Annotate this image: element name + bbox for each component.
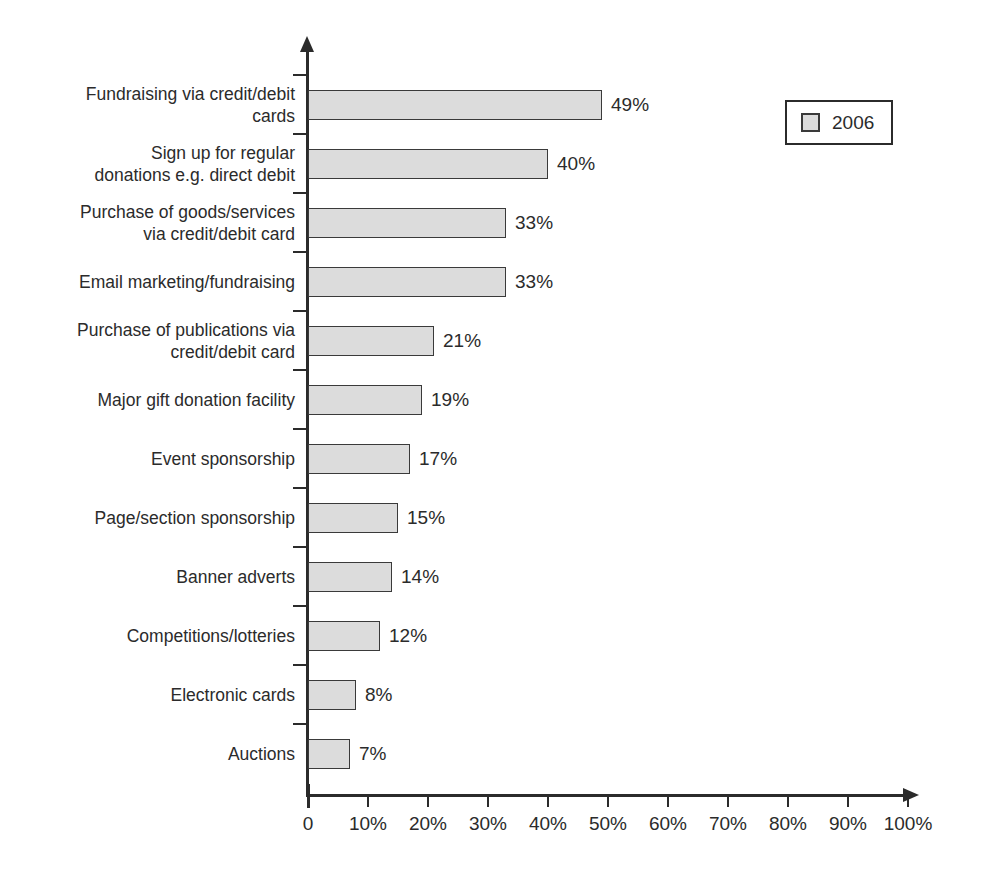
plot-area: Fundraising via credit/debit cards49%Sig… bbox=[0, 0, 987, 877]
bar-row: Email marketing/fundraising33% bbox=[0, 265, 987, 299]
bar-value-label: 33% bbox=[515, 210, 553, 236]
bar-value-label: 15% bbox=[407, 505, 445, 531]
bar-value-label: 17% bbox=[419, 446, 457, 472]
y-axis-tick bbox=[293, 723, 307, 725]
bar-value-label: 8% bbox=[365, 682, 392, 708]
x-axis-tick bbox=[547, 795, 549, 807]
bar bbox=[308, 680, 356, 710]
y-axis-tick bbox=[293, 605, 307, 607]
legend-label-2006: 2006 bbox=[832, 112, 874, 134]
bar bbox=[308, 326, 434, 356]
bar-row: Event sponsorship17% bbox=[0, 442, 987, 476]
bar bbox=[308, 385, 422, 415]
y-axis-tick bbox=[293, 369, 307, 371]
bar-value-label: 49% bbox=[611, 92, 649, 118]
category-label: Purchase of goods/services via credit/de… bbox=[20, 201, 295, 245]
category-label: Page/section sponsorship bbox=[20, 507, 295, 529]
category-label: Competitions/lotteries bbox=[20, 625, 295, 647]
bar-row: Purchase of publications via credit/debi… bbox=[0, 324, 987, 358]
bar-value-label: 14% bbox=[401, 564, 439, 590]
x-axis-tick bbox=[487, 795, 489, 807]
bar-row: Purchase of goods/services via credit/de… bbox=[0, 206, 987, 240]
y-axis-tick bbox=[293, 664, 307, 666]
x-axis-tick bbox=[907, 795, 909, 807]
y-axis-tick bbox=[293, 192, 307, 194]
x-axis-tick bbox=[787, 795, 789, 807]
x-axis-arrow-icon bbox=[903, 788, 919, 802]
x-axis-tick bbox=[667, 795, 669, 807]
bar-row: Banner adverts14% bbox=[0, 560, 987, 594]
y-axis-tick bbox=[293, 74, 307, 76]
category-label: Sign up for regular donations e.g. direc… bbox=[20, 142, 295, 186]
bar-row: Electronic cards8% bbox=[0, 678, 987, 712]
bar bbox=[308, 503, 398, 533]
bar-value-label: 7% bbox=[359, 741, 386, 767]
y-axis-tick bbox=[293, 133, 307, 135]
legend: 2006 bbox=[785, 100, 893, 145]
bar bbox=[308, 267, 506, 297]
category-label: Fundraising via credit/debit cards bbox=[20, 83, 295, 127]
bar bbox=[308, 621, 380, 651]
bar bbox=[308, 90, 602, 120]
category-label: Purchase of publications via credit/debi… bbox=[20, 319, 295, 363]
bar bbox=[308, 739, 350, 769]
bar-value-label: 40% bbox=[557, 151, 595, 177]
y-axis-tick bbox=[293, 310, 307, 312]
bar bbox=[308, 562, 392, 592]
bar bbox=[308, 444, 410, 474]
bar-row: Sign up for regular donations e.g. direc… bbox=[0, 147, 987, 181]
bar-chart: Fundraising via credit/debit cards49%Sig… bbox=[0, 0, 987, 877]
x-axis-tick bbox=[427, 795, 429, 807]
y-axis-tick bbox=[293, 428, 307, 430]
bar bbox=[308, 208, 506, 238]
bar-row: Major gift donation facility19% bbox=[0, 383, 987, 417]
category-label: Major gift donation facility bbox=[20, 389, 295, 411]
x-axis-line bbox=[306, 794, 906, 797]
bar-row: Page/section sponsorship15% bbox=[0, 501, 987, 535]
x-axis-tick bbox=[607, 795, 609, 807]
category-label: Electronic cards bbox=[20, 684, 295, 706]
category-label: Event sponsorship bbox=[20, 448, 295, 470]
category-label: Banner adverts bbox=[20, 566, 295, 588]
bar-value-label: 19% bbox=[431, 387, 469, 413]
x-axis-tick bbox=[847, 795, 849, 807]
bar-value-label: 33% bbox=[515, 269, 553, 295]
category-label: Email marketing/fundraising bbox=[20, 271, 295, 293]
y-axis-tick bbox=[293, 251, 307, 253]
bar-value-label: 21% bbox=[443, 328, 481, 354]
bar-row: Competitions/lotteries12% bbox=[0, 619, 987, 653]
x-axis-tick bbox=[307, 784, 310, 808]
y-axis-tick bbox=[293, 487, 307, 489]
bar bbox=[308, 149, 548, 179]
legend-swatch-2006 bbox=[801, 113, 820, 132]
bar-value-label: 12% bbox=[389, 623, 427, 649]
y-axis-tick bbox=[293, 546, 307, 548]
x-axis-tick-label: 100% bbox=[868, 812, 948, 836]
bar-row: Auctions7% bbox=[0, 737, 987, 771]
category-label: Auctions bbox=[20, 743, 295, 765]
y-axis-arrow-icon bbox=[300, 36, 314, 52]
x-axis-tick bbox=[367, 795, 369, 807]
x-axis-tick bbox=[727, 795, 729, 807]
